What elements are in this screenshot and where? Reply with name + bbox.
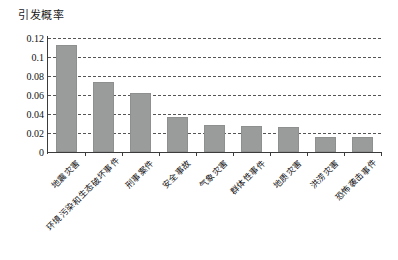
bar bbox=[278, 127, 299, 152]
bar bbox=[241, 126, 262, 152]
bar-chart: 引发概率 00.020.040.060.080.10.12 地震灾害环境污染和生… bbox=[0, 0, 398, 260]
bar bbox=[167, 117, 188, 152]
x-axis-tick bbox=[344, 152, 345, 156]
x-axis-category-label: 地震灾害 bbox=[48, 157, 82, 191]
x-axis-tick bbox=[233, 152, 234, 156]
x-axis-tick bbox=[196, 152, 197, 156]
y-axis-title: 引发概率 bbox=[18, 6, 64, 22]
x-axis-tick bbox=[85, 152, 86, 156]
plot-area bbox=[48, 38, 381, 152]
x-axis-tick bbox=[381, 152, 382, 156]
gridline bbox=[48, 38, 381, 39]
y-axis-tick-label: 0.08 bbox=[4, 71, 44, 82]
y-axis-tick-label: 0.06 bbox=[4, 90, 44, 101]
y-axis-tick-label: 0 bbox=[4, 147, 44, 158]
bar bbox=[93, 82, 114, 152]
gridline bbox=[48, 76, 381, 77]
gridline bbox=[48, 57, 381, 58]
bar bbox=[56, 45, 77, 152]
y-axis-tick-labels: 00.020.040.060.080.10.12 bbox=[0, 38, 44, 152]
x-axis-tick bbox=[159, 152, 160, 156]
y-axis-tick-label: 0.02 bbox=[4, 128, 44, 139]
x-axis-category-label: 环境污染和生态破坏事件 bbox=[43, 154, 121, 232]
bar bbox=[352, 137, 373, 152]
x-axis-category-label: 群体性事件 bbox=[227, 156, 267, 196]
x-axis-category-label: 洪涝灾害 bbox=[307, 157, 341, 191]
bar bbox=[130, 93, 151, 152]
x-axis-line bbox=[47, 152, 382, 153]
x-axis-category-label: 地质灾害 bbox=[270, 157, 304, 191]
x-axis-category-label: 刑事案件 bbox=[122, 157, 156, 191]
y-axis-tick-label: 0.1 bbox=[4, 52, 44, 63]
bar bbox=[204, 125, 225, 152]
x-axis-category-label: 安全事故 bbox=[159, 157, 193, 191]
y-axis-tick-label: 0.04 bbox=[4, 109, 44, 120]
x-axis-tick bbox=[122, 152, 123, 156]
y-axis-tick-label: 0.12 bbox=[4, 33, 44, 44]
x-axis-tick bbox=[307, 152, 308, 156]
bar bbox=[315, 137, 336, 152]
x-axis-tick bbox=[270, 152, 271, 156]
x-axis-category-label: 气象灾害 bbox=[196, 157, 230, 191]
